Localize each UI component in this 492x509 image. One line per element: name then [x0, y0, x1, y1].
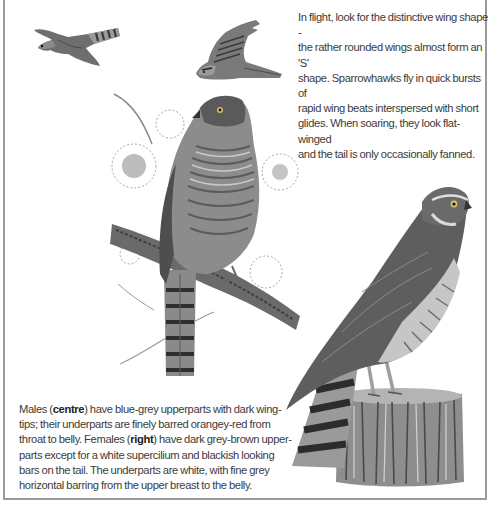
flight-caption-line: rapid wing beats interspersed with short — [298, 101, 488, 116]
plumage-caption-line: Males (centre) have blue-grey upperparts… — [19, 402, 339, 417]
caption-text: throat to belly. Females ( — [19, 433, 130, 445]
flight-caption-line: In flight, look for the distinctive wing… — [298, 10, 488, 40]
caption-text: ) have blue-grey upperparts with dark wi… — [84, 403, 281, 415]
plumage-caption-line: tips; their underparts are finely barred… — [19, 417, 339, 432]
plumage-caption: Males (centre) have blue-grey upperparts… — [19, 402, 339, 493]
plumage-caption-line: throat to belly. Females (right) have da… — [19, 432, 339, 447]
caption-text: ) have dark grey-brown upper- — [153, 433, 291, 445]
plumage-caption-line: horizontal barring from the upper breast… — [19, 478, 339, 493]
plumage-caption-line: bars on the tail. The underparts are whi… — [19, 463, 339, 478]
female-label: right — [130, 433, 153, 445]
flight-caption-line: shape. Sparrowhawks fly in quick bursts … — [298, 71, 488, 101]
flying-sparrowhawk-left-illustration — [28, 22, 124, 72]
male-sparrowhawk-perched-illustration — [104, 84, 304, 384]
male-label: centre — [53, 403, 84, 415]
flight-caption-line: glides. When soaring, they look flat-win… — [298, 116, 488, 146]
caption-text: Males ( — [19, 403, 53, 415]
flight-caption-line: and the tail is only occasionally fanned… — [298, 147, 488, 162]
plumage-caption-line: parts except for a white supercilium and… — [19, 448, 339, 463]
flight-caption: In flight, look for the distinctive wing… — [298, 10, 488, 162]
flight-caption-line: the rather rounded wings almost form an … — [298, 40, 488, 70]
flying-sparrowhawk-right-illustration — [186, 18, 286, 82]
